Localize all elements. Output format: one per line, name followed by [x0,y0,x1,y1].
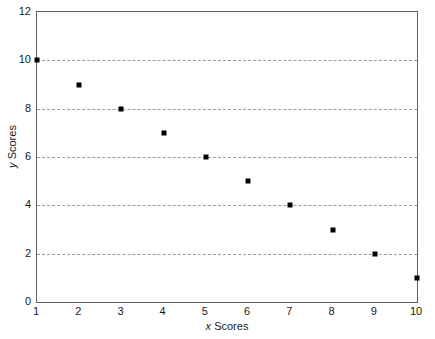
data-point [246,179,251,184]
data-point [203,155,208,160]
gridline-y-4 [37,205,417,206]
x-tick-label-5: 5 [202,305,208,318]
data-point [288,203,293,208]
x-tick-label-7: 7 [286,305,292,318]
x-tick-label-6: 6 [244,305,250,318]
data-point [330,227,335,232]
y-tick-label-4: 4 [25,199,31,210]
x-axis-tick-labels: 12345678910 [36,305,418,321]
y-axis-title: y Scores [6,107,19,187]
gridline-y-8 [37,109,417,110]
data-point [161,130,166,135]
gridline-y-6 [37,157,417,158]
x-tick-label-2: 2 [75,305,81,318]
x-tick-label-3: 3 [117,305,123,318]
y-tick-label-2: 2 [25,247,31,258]
x-axis-title: x Scores [36,320,418,333]
x-axis-title-text: Scores [211,320,248,332]
y-tick-label-0: 0 [25,296,31,307]
x-tick-label-4: 4 [160,305,166,318]
y-tick-label-10: 10 [19,54,31,65]
x-tick-label-1: 1 [33,305,39,318]
y-tick-label-12: 12 [19,6,31,17]
y-axis-title-text: Scores [6,125,18,162]
data-point [415,275,420,280]
y-tick-label-8: 8 [25,102,31,113]
data-point [77,82,82,87]
x-tick-label-9: 9 [371,305,377,318]
gridline-y-10 [37,60,417,61]
gridline-y-2 [37,254,417,255]
x-tick-label-8: 8 [328,305,334,318]
scatter-plot-figure: 024681012 12345678910 x Scores y Scores [0,0,435,339]
y-axis-title-variable: y [6,162,18,168]
data-point [35,58,40,63]
plot-area [36,11,418,303]
x-tick-label-10: 10 [410,305,422,318]
data-point [372,251,377,256]
y-tick-label-6: 6 [25,151,31,162]
data-point [119,106,124,111]
